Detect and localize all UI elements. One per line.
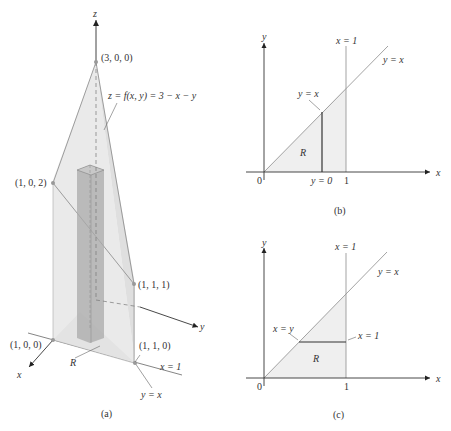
label-tick1-c: 1 (344, 381, 349, 392)
label-x-axis: x (16, 369, 22, 380)
label-yx-b: y = x (382, 54, 404, 65)
label-z-axis: z (92, 8, 97, 19)
label-yx-c: y = x (377, 266, 399, 277)
caption-c: (c) (333, 409, 344, 421)
line-yx-3d (135, 363, 152, 388)
label-x-axis-b: x (435, 167, 441, 178)
label-surface: z = f(x, y) = 3 − x − y (107, 90, 197, 102)
y-axis (140, 307, 198, 327)
caption-a: (a) (101, 408, 112, 420)
label-tick1-b: 1 (344, 175, 349, 186)
label-x1-c: x = 1 (334, 241, 356, 252)
label-yx: y = x (140, 389, 162, 400)
label-point-110: (1, 1, 0) (139, 340, 171, 352)
label-segment-top-b: y = x (297, 88, 319, 99)
label-segment-left-c: x = y (272, 323, 294, 334)
label-origin-b: 0 (257, 175, 262, 186)
figure-canvas: z (3, 0, 0) z = f(x, y) = 3 − x − y (1, … (0, 0, 451, 431)
caption-b: (b) (334, 205, 346, 217)
label-y-axis: y (199, 321, 205, 332)
panel-a-3d: z (3, 0, 0) z = f(x, y) = 3 − x − y (1, … (10, 8, 205, 420)
label-x-axis-c: x (435, 373, 441, 384)
label-y-axis-c: y (261, 237, 267, 248)
prism-column (77, 165, 104, 343)
panel-c-region: y x = 1 y = x x = y x = 1 R 0 1 x (c) (246, 237, 441, 421)
panel-b-region: y x = 1 y = x y = x R 0 y = 0 1 x (b) (246, 31, 441, 217)
label-origin-c: 0 (257, 381, 262, 392)
label-region-c: R (312, 353, 319, 364)
label-x1-b: x = 1 (335, 35, 357, 46)
label-point-300: (3, 0, 0) (101, 52, 133, 64)
label-region-b: R (299, 147, 306, 158)
label-y-axis-b: y (261, 31, 267, 42)
label-segment-bottom-b: y = 0 (310, 175, 332, 186)
label-point-102: (1, 0, 2) (15, 177, 47, 189)
label-point-111: (1, 1, 1) (138, 279, 170, 291)
label-point-100: (1, 0, 0) (10, 339, 42, 351)
label-region-r: R (69, 357, 76, 368)
label-segment-right-c: x = 1 (357, 330, 379, 341)
label-x1: x = 1 (159, 361, 181, 372)
